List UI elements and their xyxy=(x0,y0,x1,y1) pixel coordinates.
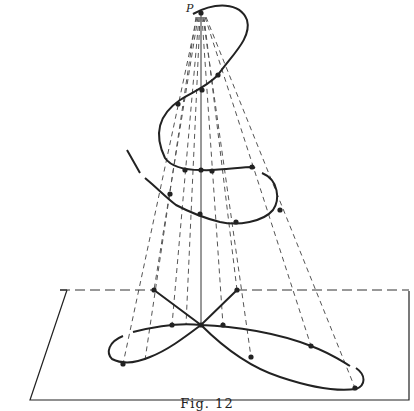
marked-point xyxy=(234,287,239,292)
projected-curve xyxy=(109,290,364,390)
marked-point xyxy=(308,343,313,348)
marked-point xyxy=(175,101,180,106)
marked-point xyxy=(233,219,238,224)
marked-point xyxy=(197,211,202,216)
marked-point xyxy=(198,167,203,172)
marked-point xyxy=(249,164,254,169)
figure-caption: Fig. 12 xyxy=(0,396,414,411)
marked-point xyxy=(182,167,187,172)
marked-point xyxy=(198,322,203,327)
marked-point xyxy=(248,354,253,359)
projection-ray xyxy=(186,17,200,325)
marked-point xyxy=(120,361,125,366)
marked-point xyxy=(277,207,282,212)
marked-point xyxy=(220,322,225,327)
marked-point xyxy=(198,10,203,15)
marked-point xyxy=(151,287,156,292)
projection-ray xyxy=(206,17,355,388)
projection-rays xyxy=(123,17,355,388)
helix-curve xyxy=(127,6,277,224)
marked-points xyxy=(120,10,357,390)
marked-point xyxy=(199,87,204,92)
marked-point xyxy=(215,72,220,77)
projection-ray xyxy=(145,17,196,360)
marked-point xyxy=(352,385,357,390)
point-p-label: P xyxy=(185,2,194,15)
marked-point xyxy=(209,168,214,173)
marked-point xyxy=(167,191,172,196)
marked-point xyxy=(169,322,174,327)
